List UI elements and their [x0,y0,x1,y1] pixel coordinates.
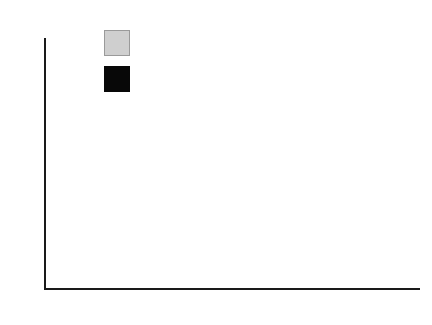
legend-item-total-private-flows [104,28,143,58]
y-axis-line [44,38,46,290]
chart-legend [104,28,143,100]
legend-item-official-development-finance [104,64,143,94]
x-axis-line [44,288,420,290]
black-swatch-icon [104,66,130,92]
gray-swatch-icon [104,30,130,56]
plot-area [0,0,432,325]
